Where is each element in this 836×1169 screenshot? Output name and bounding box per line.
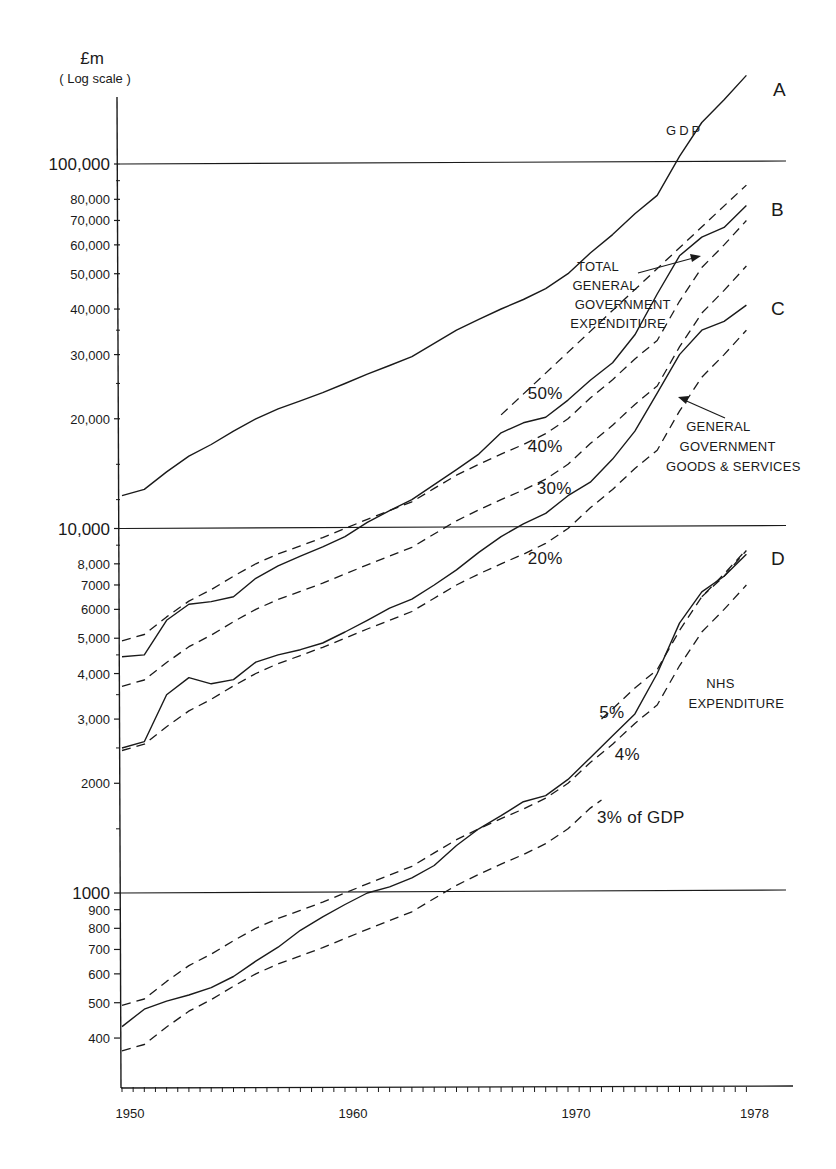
y-tick-label: 4,000 — [77, 667, 110, 682]
x-tick-label: 1960 — [339, 1106, 368, 1121]
annotation-label: GOODS & SERVICES — [666, 459, 801, 474]
y-tick-label: 6000 — [81, 602, 110, 617]
y-tick-label: 8,000 — [77, 557, 110, 572]
y-tick-label: 3,000 — [77, 712, 110, 727]
series-lines — [122, 75, 746, 1050]
series-letter-d: D — [771, 548, 785, 569]
y-tick-label: 50,000 — [70, 267, 110, 282]
arrowhead-icon — [690, 254, 701, 262]
y-tick-label: 80,000 — [70, 192, 110, 207]
annotation-label: GENERAL — [686, 419, 750, 434]
series-3-of-gdp — [122, 800, 602, 1051]
series-letter-b: B — [771, 199, 784, 220]
reference-line — [120, 161, 786, 164]
y-tick-label: 5,000 — [77, 631, 110, 646]
series-20-of-gdp — [122, 330, 746, 750]
y-axis-line — [117, 97, 121, 1088]
annotation-label: 5% — [599, 703, 624, 722]
y-tick-label: 60,000 — [70, 238, 110, 253]
annotation-label: 3% of GDP — [597, 808, 685, 827]
annotation-label: NHS — [706, 676, 734, 691]
y-tick-label: 800 — [88, 921, 110, 936]
arrow-goods-services — [682, 399, 725, 418]
y-axis-scale-label: ( Log scale ) — [59, 71, 131, 86]
y-tick-label: 1000 — [72, 884, 110, 903]
annotation-label: GOVERNMENT — [575, 297, 671, 312]
x-tick-label: 1978 — [740, 1106, 769, 1121]
annotation-label: GENERAL — [572, 278, 636, 293]
annotation-label: EXPENDITURE — [570, 316, 666, 331]
series-letter-a: A — [773, 79, 786, 100]
annotation-label: 20% — [528, 549, 563, 568]
annotation-label: EXPENDITURE — [688, 696, 784, 711]
y-tick-label: 400 — [88, 1031, 110, 1046]
x-tick-label: 1970 — [562, 1106, 591, 1121]
y-tick-label: 2000 — [81, 776, 110, 791]
annotation-label: 50% — [528, 384, 563, 403]
annotation-label: 4% — [615, 745, 640, 764]
y-tick-label: 700 — [88, 942, 110, 957]
annotation-label: GOVERNMENT — [680, 439, 776, 454]
y-axis-title: £m ( Log scale ) — [59, 49, 131, 86]
y-axis-ticks: 100,00080,00070,00060,00050,00040,00030,… — [49, 155, 120, 1046]
series-gdp — [122, 75, 746, 495]
series-total-general-government-expenditure — [122, 205, 746, 656]
y-tick-label: 600 — [88, 967, 110, 982]
x-tick-label: 1950 — [116, 1106, 145, 1121]
series-letters: A B C D — [771, 79, 786, 569]
annotation-label: GDP — [666, 123, 703, 138]
y-tick-label: 70,000 — [70, 213, 110, 228]
y-tick-label: 40,000 — [70, 302, 110, 317]
y-tick-label: 30,000 — [70, 348, 110, 363]
y-tick-label: 900 — [88, 903, 110, 918]
annotations: GDPTOTALGENERALGOVERNMENTEXPENDITURE50%4… — [528, 123, 801, 826]
annotation-label: 40% — [528, 437, 563, 456]
x-axis-ticks: 1950196019701978 — [116, 1087, 769, 1121]
y-tick-label: 500 — [88, 996, 110, 1011]
annotation-label: 30% — [537, 479, 572, 498]
annotation-label: TOTAL — [577, 259, 619, 274]
annotation-arrows — [638, 254, 725, 418]
horizontal-reference-lines — [120, 161, 786, 893]
y-tick-label: 20,000 — [70, 412, 110, 427]
y-tick-label: 10,000 — [58, 520, 110, 539]
y-tick-label: 100,000 — [49, 155, 110, 174]
y-axis-unit-label: £m — [80, 49, 104, 68]
series-40-of-gdp-vs-total-expenditure — [122, 221, 746, 641]
reference-line — [120, 890, 786, 893]
series-4-of-gdp — [122, 585, 746, 1005]
series-nhs-expenditure — [122, 554, 746, 1026]
y-tick-label: 7000 — [81, 578, 110, 593]
reference-line — [120, 526, 786, 529]
line-chart: £m ( Log scale ) 100,00080,00070,00060,0… — [0, 0, 836, 1169]
arrowhead-icon — [678, 396, 689, 404]
series-letter-c: C — [771, 298, 785, 319]
